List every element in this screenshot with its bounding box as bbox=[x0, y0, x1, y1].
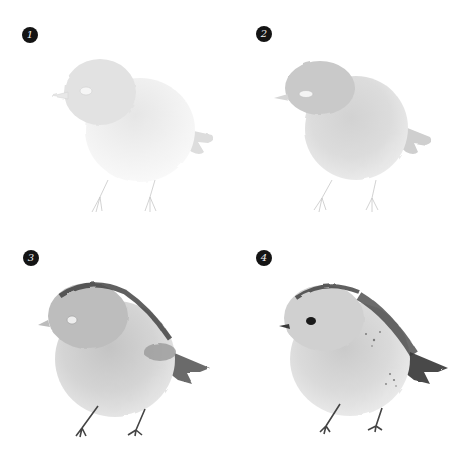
step-panel-3: 3 bbox=[0, 234, 234, 468]
bird-illustration-step-2 bbox=[234, 0, 468, 234]
bird-illustration-step-4 bbox=[234, 234, 468, 468]
step-panel-1: 1 bbox=[0, 0, 234, 234]
step-panel-4: 4 bbox=[234, 234, 468, 468]
bird-illustration-step-3 bbox=[0, 234, 234, 468]
bird-illustration-step-1 bbox=[0, 0, 234, 234]
step-panel-2: 2 bbox=[234, 0, 468, 234]
